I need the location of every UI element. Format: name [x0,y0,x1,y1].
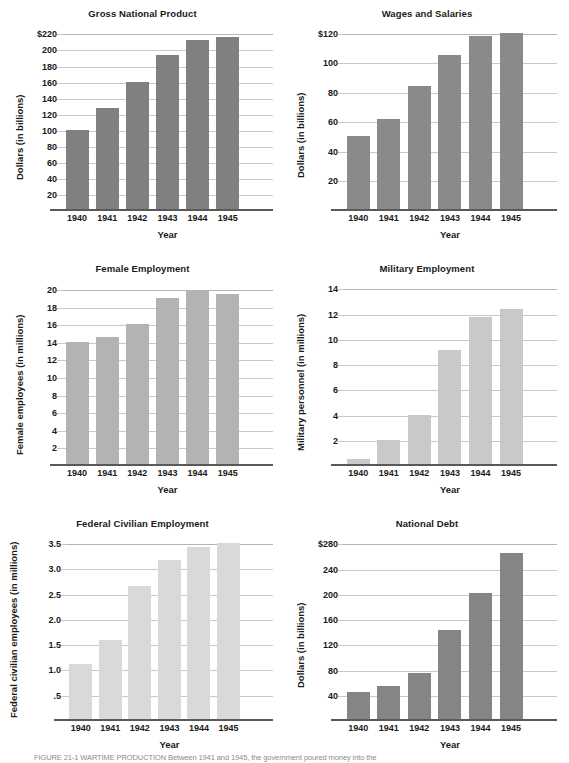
bar [469,593,492,720]
bar-slot [435,283,466,465]
y-axis-tick-label: 18 [47,303,57,312]
y-axis-title: Dollars (in billions) [295,602,306,688]
y-axis-title: Dollars (in billions) [295,92,306,178]
bar-slot [214,538,244,720]
x-axis-tick-label: 1945 [213,468,243,478]
bar-slot [343,28,374,210]
bar [500,309,523,465]
bar-series [343,538,557,720]
y-axis-tick-label: 140 [42,94,57,103]
x-axis-tick-label: 1940 [343,468,374,478]
bar-slot [92,283,122,465]
bar [217,543,240,720]
x-axis-tick-label: 1943 [435,723,466,733]
x-axis-title: Year [62,484,273,495]
chart-panel-national-debt: National Debt Dollars (in billions) 4080… [285,510,569,763]
x-axis-line [54,719,273,721]
bar-slot [152,28,182,210]
y-axis-tick-label: 60 [328,118,338,127]
bar-slot [465,283,496,465]
plot-area: 4080120160200240$280 [343,538,557,721]
x-axis-line [331,464,557,466]
bar [408,673,431,720]
bar [99,640,122,720]
chart-title: Female Employment [0,263,285,274]
y-axis-tick-label: 40 [47,174,57,183]
bar-slot [184,538,214,720]
y-axis-tick-label: 16 [47,321,57,330]
y-axis-tick-label: 40 [328,691,338,700]
bar [347,136,370,210]
bar [469,317,492,465]
y-axis-tick-label: 6 [333,386,338,395]
bar [408,86,431,210]
x-axis-tick-label: 1942 [404,213,435,223]
bar-slot [374,283,405,465]
x-axis-tick-label: 1941 [374,468,405,478]
x-axis-tick-label: 1943 [435,468,466,478]
y-axis-tick-label: 8 [52,391,57,400]
bar [158,560,181,720]
bar-slot [62,283,92,465]
chart-title: Federal Civilian Employment [0,518,285,529]
bar-slot [122,28,152,210]
plot-area: 2468101214 [343,283,557,466]
x-axis-tick-labels: 194019411942194319441945 [343,468,557,478]
x-axis-tick-label: 1942 [122,213,152,223]
bar [377,440,400,465]
chart-panel-female-employment: Female Employment Female employees (in m… [0,255,285,510]
x-axis-tick-label: 1940 [66,723,96,733]
chart-panel-federal-civilian-employment: Federal Civilian Employment Federal civi… [0,510,285,763]
bar-slot [343,538,374,720]
x-axis-tick-label: 1943 [155,723,185,733]
x-axis-title: Year [343,484,557,495]
y-axis-tick-label: 8 [333,361,338,370]
chart-panel-military-employment: Military Employment Military personnel (… [285,255,569,510]
y-axis-tick-label: 120 [42,110,57,119]
bar-slot [496,28,527,210]
x-axis-tick-label: 1944 [183,213,213,223]
x-axis-tick-label: 1945 [213,213,243,223]
x-axis-tick-label: 1945 [496,213,527,223]
bar-slot [496,538,527,720]
bar-slot [122,283,152,465]
x-axis-tick-label: 1940 [62,468,92,478]
bar [156,55,179,210]
bar [126,324,149,465]
bar [438,630,461,720]
bar [66,130,89,210]
y-axis-title: Military personnel (in millions) [295,314,306,451]
figure-caption: FIGURE 21-1 WARTIME PRODUCTION Between 1… [34,754,559,762]
y-axis-tick-label: 4 [52,426,57,435]
bar [96,108,119,210]
y-axis-tick-label: 1.0 [48,666,61,675]
bar-slot [92,28,122,210]
bar-slot [343,283,374,465]
y-axis-tick-label: 100 [42,126,57,135]
chart-grid: Gross National Product Dollars (in billi… [0,0,569,763]
y-axis-tick-label: $220 [37,30,57,39]
bar [96,337,119,465]
y-axis-tick-label: 200 [323,590,338,599]
y-axis-tick-label: 120 [323,641,338,650]
y-axis-tick-label: 14 [328,285,338,294]
y-axis-tick-label: 80 [47,142,57,151]
bar-slot [155,538,185,720]
y-axis-tick-label: 10 [47,374,57,383]
bar-slot [496,283,527,465]
plot-area: 20406080100120140160180200$220 [62,28,273,211]
x-axis-line [50,464,273,466]
y-axis-tick-label: 80 [328,666,338,675]
bar [500,33,523,210]
bar [347,692,370,720]
bar [377,686,400,720]
chart-panel-wages-and-salaries: Wages and Salaries Dollars (in billions)… [285,0,569,255]
y-axis-tick-label: 200 [42,46,57,55]
y-axis-tick-label: 20 [47,190,57,199]
x-axis-title: Year [343,229,557,240]
x-axis-tick-label: 1944 [184,723,214,733]
y-axis-tick-label: 4 [333,411,338,420]
x-axis-tick-labels: 194019411942194319441945 [66,723,273,733]
y-axis-tick-label: 3.5 [48,540,61,549]
x-axis-line [331,719,557,721]
